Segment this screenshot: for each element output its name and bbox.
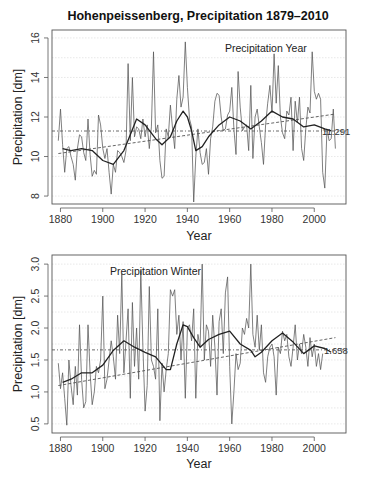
data-series: [58, 264, 322, 425]
mean-value-label: 1.658: [324, 345, 348, 356]
x-axis-label: Year: [186, 457, 211, 471]
x-tick-label: 1940: [176, 213, 200, 225]
x-tick-label: 1980: [260, 213, 284, 225]
grid-lines: [52, 264, 346, 424]
panel-label: Precipitation Winter: [110, 265, 202, 277]
x-tick-label: 1900: [91, 213, 115, 225]
x-tick-label: 2000: [303, 442, 327, 454]
precipitation-figure: Hohenpeissenberg, Precipitation 1879–201…: [0, 0, 365, 481]
x-tick-label: 1960: [218, 213, 242, 225]
y-tick-label: 2.0: [29, 321, 41, 336]
y-axis: 810121416: [29, 32, 48, 199]
y-tick-label: 14: [29, 71, 41, 83]
x-tick-label: 1900: [91, 442, 115, 454]
mean-value-label: 11.291: [322, 126, 350, 137]
y-tick-label: 12: [29, 111, 41, 123]
y-tick-label: 10: [29, 151, 41, 163]
x-tick-label: 1920: [133, 213, 157, 225]
panel-label: Precipitation Year: [225, 42, 307, 54]
x-tick-label: 1880: [49, 213, 73, 225]
y-tick-label: 16: [29, 32, 41, 44]
x-tick-label: 1960: [218, 442, 242, 454]
x-tick-label: 1880: [49, 442, 73, 454]
y-tick-label: 1.0: [29, 384, 41, 399]
x-tick-label: 1920: [133, 442, 157, 454]
x-axis: 1880190019201940196019802000: [49, 208, 326, 225]
raw-series-path: [58, 264, 322, 425]
y-tick-label: 3.0: [29, 257, 41, 272]
x-tick-label: 1980: [260, 442, 284, 454]
data-series: [58, 42, 335, 202]
y-axis: 0.51.01.52.02.53.0: [29, 257, 48, 432]
panel-annual: 1880190019201940196019802000 810121416 P…: [11, 30, 350, 243]
y-axis-label: Precipitation [dm]: [11, 296, 25, 393]
panel-winter: 1880190019201940196019802000 0.51.01.52.…: [11, 255, 348, 471]
x-axis-label: Year: [186, 229, 211, 243]
y-axis-label: Precipitation [dm]: [11, 69, 25, 166]
y-tick-label: 2.5: [29, 289, 41, 304]
figure-title: Hohenpeissenberg, Precipitation 1879–201…: [67, 9, 328, 23]
x-axis: 1880190019201940196019802000: [49, 437, 326, 454]
raw-series-path: [58, 42, 335, 202]
y-tick-label: 8: [29, 193, 41, 199]
y-tick-label: 0.5: [29, 416, 41, 431]
x-tick-label: 1940: [176, 442, 200, 454]
y-tick-label: 1.5: [29, 353, 41, 368]
x-tick-label: 2000: [303, 213, 327, 225]
